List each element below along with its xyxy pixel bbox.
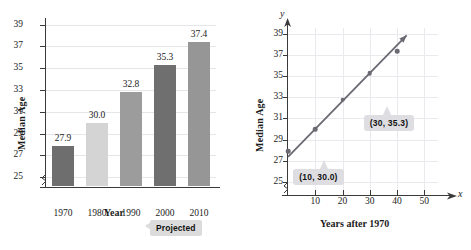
bar-chart-gridline [46, 25, 216, 26]
x-axis-name-label: x [458, 188, 462, 199]
bar-chart-bar[interactable] [154, 65, 176, 186]
bar-chart-y-tick-label: 29 [3, 128, 23, 138]
bar-chart-y-tick [40, 112, 46, 113]
line-chart-y-tick-label: 39 [263, 28, 283, 38]
bar-chart-bar[interactable] [86, 123, 108, 186]
bar-chart-y-tick [40, 90, 46, 91]
line-chart-callout-tail [319, 160, 329, 171]
figure-container: Median Age Year 252729313335373927.91970… [0, 0, 471, 250]
bar-chart-x-axis-line [40, 187, 220, 188]
bar-chart-y-tick-label: 39 [3, 19, 23, 29]
line-chart-point-callout: (30, 35.3) [364, 115, 414, 131]
line-chart-data-point[interactable] [340, 97, 345, 102]
line-chart-y-tick-label: 37 [263, 49, 283, 59]
bar-chart-y-tick-label: 27 [3, 149, 23, 159]
line-chart-data-point[interactable] [395, 49, 400, 54]
bar-chart-value-label: 32.8 [114, 79, 148, 89]
line-chart-data-point[interactable] [313, 127, 318, 132]
line-chart-x-tick-label: 10 [300, 196, 330, 206]
line-chart-y-tick-label: 29 [263, 134, 283, 144]
line-chart-point-callout: (10, 30.0) [293, 169, 343, 185]
bar-chart-y-tick-label: 25 [3, 171, 23, 181]
line-chart-y-axis-title: Median Age [254, 99, 265, 152]
bar-chart-y-tick [40, 177, 46, 178]
line-chart-x-tick-label: 40 [382, 196, 412, 206]
bar-chart-y-tick-label: 37 [3, 40, 23, 50]
bar-chart-value-label: 27.9 [46, 133, 80, 143]
line-chart-y-tick-label: 31 [263, 112, 283, 122]
bar-chart-y-tick-label: 31 [3, 106, 23, 116]
bar-chart-bar[interactable] [52, 146, 74, 186]
line-chart-y-tick-label: 35 [263, 70, 283, 80]
bar-chart-y-tick [40, 155, 46, 156]
bar-chart-x-tick-label: 2010 [179, 208, 219, 218]
line-chart-y-tick-label: 25 [263, 176, 283, 186]
line-chart-x-tick-label: 50 [409, 196, 439, 206]
y-axis-arrowhead-icon [282, 18, 294, 28]
bar-chart-y-tick [40, 68, 46, 69]
line-chart-x-tick-label: 20 [328, 196, 358, 206]
bar-chart-y-tick-label: 33 [3, 84, 23, 94]
bar-chart-plot-area: 252729313335373927.9197030.0198032.81990… [46, 18, 216, 186]
bar-chart-bar[interactable] [120, 92, 142, 186]
bar-chart-y-tick [40, 46, 46, 47]
bar-chart-value-label: 37.4 [182, 29, 216, 39]
bar-chart-panel: Median Age Year 252729313335373927.91970… [0, 0, 236, 250]
bar-chart-bar[interactable] [188, 42, 210, 186]
bar-chart-value-label: 35.3 [148, 52, 182, 62]
bar-chart-y-tick [40, 25, 46, 26]
line-chart-data-point[interactable] [286, 149, 291, 154]
line-chart-x-tick-label: 30 [355, 196, 385, 206]
line-chart-x-axis-title: Years after 1970 [320, 218, 389, 229]
bar-chart-y-axis-title: Median Age [16, 97, 27, 150]
line-chart-y-tick-label: 27 [263, 155, 283, 165]
bar-chart-value-label: 30.0 [80, 110, 114, 120]
line-chart-callout-tail [382, 106, 392, 117]
line-chart-plot-area: 25272931333537391020304050(10, 30.0)(30,… [288, 28, 438, 190]
line-chart-panel: Median Age Years after 1970 y x 25272931… [236, 0, 471, 250]
projected-annotation-badge: Projected [150, 220, 202, 236]
line-chart-y-tick-label: 33 [263, 91, 283, 101]
bar-chart-y-tick-label: 35 [3, 62, 23, 72]
line-chart-data-point[interactable] [368, 71, 373, 76]
